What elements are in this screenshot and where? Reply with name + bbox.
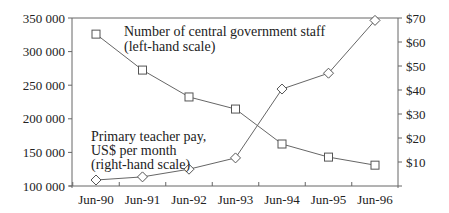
pay-annotation: (right-hand scale) xyxy=(91,157,190,173)
square-marker xyxy=(92,30,100,38)
square-marker xyxy=(139,66,147,74)
x-tick-label: Jun-94 xyxy=(264,192,300,207)
left-axis: 100 000150 000200 000250 000300 000350 0… xyxy=(23,11,72,194)
staff-annotation: (left-hand scale) xyxy=(124,39,216,55)
right-tick-label: $70 xyxy=(406,11,426,26)
right-axis: $10$20$30$40$50$60$70 xyxy=(398,11,426,170)
x-tick-label: Jun-95 xyxy=(311,192,346,207)
pay-annotation: Primary teacher pay, xyxy=(91,129,206,144)
x-tick-label: Jun-90 xyxy=(78,192,113,207)
square-marker xyxy=(278,140,286,148)
left-tick-label: 200 000 xyxy=(23,111,65,126)
left-tick-label: 100 000 xyxy=(23,179,65,194)
square-marker xyxy=(325,153,333,161)
square-marker xyxy=(232,105,240,113)
left-tick-label: 350 000 xyxy=(23,11,65,26)
staff-annotation: Number of central government staff xyxy=(124,24,325,39)
square-marker xyxy=(185,93,193,101)
left-tick-label: 250 000 xyxy=(23,78,65,93)
x-tick-label: Jun-91 xyxy=(125,192,160,207)
diamond-marker xyxy=(91,175,101,185)
right-tick-label: $30 xyxy=(406,107,426,122)
square-marker xyxy=(371,161,379,169)
annotations: Number of central government staff(left-… xyxy=(91,24,325,173)
left-tick-label: 150 000 xyxy=(23,145,65,160)
diamond-marker xyxy=(277,84,287,94)
x-tick-label: Jun-93 xyxy=(218,192,253,207)
right-tick-label: $20 xyxy=(406,131,426,146)
diamond-marker xyxy=(231,153,241,163)
right-tick-label: $50 xyxy=(406,59,426,74)
right-tick-label: $10 xyxy=(406,155,426,170)
right-tick-label: $60 xyxy=(406,35,426,50)
x-tick-label: Jun-92 xyxy=(171,192,206,207)
left-tick-label: 300 000 xyxy=(23,44,65,59)
pay-annotation: US$ per month xyxy=(91,143,177,158)
dual-axis-line-chart: 100 000150 000200 000250 000300 000350 0… xyxy=(0,0,449,213)
diamond-marker xyxy=(138,172,148,182)
right-tick-label: $40 xyxy=(406,83,426,98)
x-tick-label: Jun-96 xyxy=(357,192,393,207)
